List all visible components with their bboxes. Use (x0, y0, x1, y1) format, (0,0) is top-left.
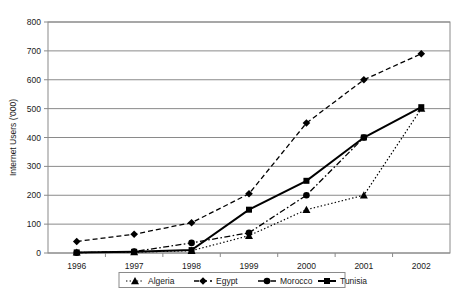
data-point-marker-square (74, 249, 80, 255)
y-axis-title-text: Internet Users ('000) (8, 99, 18, 176)
y-tick-label: 500 (27, 104, 41, 114)
chart-background (0, 0, 464, 299)
x-tick-label: 1998 (182, 261, 201, 271)
y-axis-title: Internet Users ('000) (8, 99, 18, 176)
data-point-marker-square (189, 247, 195, 253)
x-tick-label: 1999 (240, 261, 259, 271)
y-tick-label: 600 (27, 75, 41, 85)
y-tick-label: 0 (36, 248, 41, 258)
data-point-marker-circle (303, 192, 310, 199)
data-point-marker-square (131, 249, 137, 255)
data-point-marker-circle (188, 240, 195, 247)
data-point-marker-square (246, 207, 252, 213)
y-tick-label: 100 (27, 219, 41, 229)
legend-label: Egypt (216, 276, 238, 286)
x-tick-label: 2000 (297, 261, 316, 271)
data-point-marker-circle (264, 278, 271, 285)
y-tick-label: 800 (27, 17, 41, 27)
x-tick-label: 1996 (67, 261, 86, 271)
x-tick-label: 2002 (412, 261, 431, 271)
x-tick-label: 1997 (125, 261, 144, 271)
y-tick-label: 200 (27, 190, 41, 200)
data-point-marker-circle (246, 229, 253, 236)
data-point-marker-square (361, 135, 367, 141)
legend-label: Algeria (148, 276, 175, 286)
y-axis-tick-labels: 0100200300400500600700800 (27, 17, 41, 258)
line-chart: 0100200300400500600700800 19961997199819… (0, 0, 464, 299)
chart-canvas: 0100200300400500600700800 19961997199819… (0, 0, 464, 299)
y-tick-label: 700 (27, 46, 41, 56)
y-tick-label: 400 (27, 133, 41, 143)
legend-label: Morocco (280, 276, 313, 286)
y-tick-label: 300 (27, 161, 41, 171)
x-tick-label: 2001 (354, 261, 373, 271)
data-point-marker-square (303, 178, 309, 184)
legend-label: Tunisia (340, 276, 367, 286)
data-point-marker-square (324, 278, 330, 284)
data-point-marker-square (418, 104, 424, 110)
